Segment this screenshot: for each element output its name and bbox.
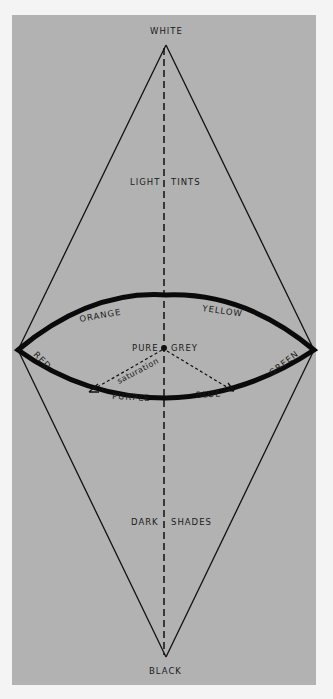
- label-dark: DARK: [131, 517, 159, 527]
- color-solid-diagram: WHITE LIGHT TINTS ORANGE YELLOW RED GREE…: [0, 0, 333, 699]
- label-grey: GREY: [171, 343, 198, 353]
- label-tints: TINTS: [170, 177, 201, 187]
- label-blue: BLUE: [195, 388, 221, 400]
- label-saturation: saturation: [116, 356, 161, 385]
- label-shades: SHADES: [171, 517, 212, 527]
- cone-outline: [18, 45, 314, 657]
- label-light: LIGHT: [130, 177, 160, 187]
- label-purple: PURPLE: [112, 391, 151, 403]
- label-white: WHITE: [150, 26, 183, 36]
- label-black: BLACK: [149, 666, 182, 676]
- saturation-arrows: [94, 350, 230, 389]
- label-pure: PURE: [132, 343, 159, 353]
